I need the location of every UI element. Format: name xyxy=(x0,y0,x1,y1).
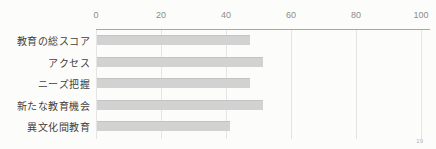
plot-area: 020406080100 xyxy=(96,29,421,139)
category-label-0: 教育の総スコア xyxy=(0,33,90,48)
x-tick-label-20: 20 xyxy=(156,10,166,20)
x-tick-label-80: 80 xyxy=(351,10,361,20)
bar-4 xyxy=(97,121,230,131)
gridline-100 xyxy=(421,30,422,139)
category-label-3: 新たな教育機会 xyxy=(0,97,90,112)
x-tick-label-100: 100 xyxy=(413,10,428,20)
gridline-60 xyxy=(291,30,292,139)
category-label-4: 異文化間教育 xyxy=(0,119,90,134)
slide: 020406080100 教育の総スコアアクセスニーズ把握新たな教育機会異文化間… xyxy=(0,0,436,149)
x-tick-label-0: 0 xyxy=(93,10,98,20)
x-axis-line xyxy=(96,29,430,30)
bar-1 xyxy=(97,57,263,67)
bar-2 xyxy=(97,78,250,88)
x-tick-label-60: 60 xyxy=(286,10,296,20)
gridline-80 xyxy=(356,30,357,139)
bar-0 xyxy=(97,35,250,45)
x-tick-label-40: 40 xyxy=(221,10,231,20)
page-number: 19 xyxy=(416,138,423,144)
category-label-2: ニーズ把握 xyxy=(0,76,90,91)
horizontal-bar-chart: 020406080100 教育の総スコアアクセスニーズ把握新たな教育機会異文化間… xyxy=(0,0,436,149)
category-label-1: アクセス xyxy=(0,54,90,69)
bar-3 xyxy=(97,100,263,110)
